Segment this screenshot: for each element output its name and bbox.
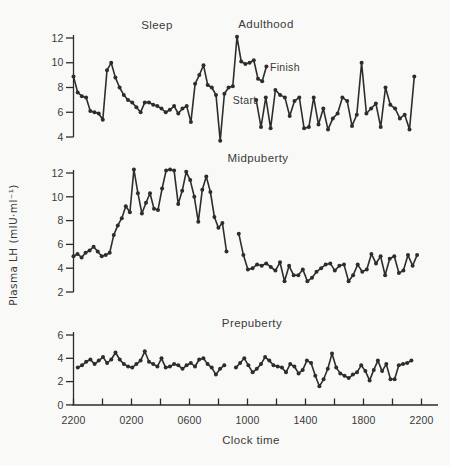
data-point xyxy=(350,124,354,128)
data-point xyxy=(376,359,380,363)
data-point xyxy=(184,170,188,174)
data-point xyxy=(355,113,359,117)
data-point xyxy=(293,99,297,103)
data-point xyxy=(222,92,226,96)
data-point xyxy=(109,61,113,65)
midpuberty-y-tick-label: 2 xyxy=(57,286,63,298)
data-point xyxy=(76,252,80,256)
data-point xyxy=(176,363,180,367)
x-axis: 2200020006001000140018002200 xyxy=(61,399,438,427)
data-point xyxy=(292,365,296,369)
data-point xyxy=(401,362,405,366)
data-point xyxy=(220,221,224,225)
data-point xyxy=(389,377,393,381)
x-tick-label: 1000 xyxy=(235,414,259,426)
data-point xyxy=(403,113,407,117)
data-point xyxy=(264,95,268,99)
data-point xyxy=(72,74,76,78)
panel-adulthood: 4681012 xyxy=(51,32,416,143)
data-point xyxy=(319,266,323,270)
data-point xyxy=(130,366,134,370)
data-point xyxy=(305,279,309,283)
data-point xyxy=(337,264,341,268)
data-point xyxy=(80,363,84,367)
adulthood-y-tick-label: 8 xyxy=(57,81,63,93)
data-point xyxy=(151,103,155,107)
data-point xyxy=(124,204,128,208)
data-point xyxy=(278,93,282,97)
data-point xyxy=(114,351,118,355)
data-point xyxy=(206,83,210,87)
data-point xyxy=(259,125,263,129)
data-point xyxy=(112,233,116,237)
data-point xyxy=(160,187,164,191)
prepuberty-daytime-markers xyxy=(234,352,414,389)
y-axis-title: Plasma LH (mIU·ml⁻¹) xyxy=(7,184,19,306)
data-point xyxy=(260,79,264,83)
data-point xyxy=(405,361,409,365)
data-point xyxy=(272,363,276,367)
midpuberty-y-tick-label: 6 xyxy=(57,238,63,250)
data-point xyxy=(188,178,192,182)
data-point xyxy=(143,100,147,104)
data-point xyxy=(252,58,256,62)
data-point xyxy=(93,110,97,114)
data-point xyxy=(283,95,287,99)
data-point xyxy=(234,366,238,370)
data-point xyxy=(267,359,271,363)
x-tick-label: 2200 xyxy=(409,414,433,426)
panel-prepuberty: 0246 xyxy=(57,329,413,411)
data-point xyxy=(72,254,76,258)
data-point xyxy=(104,253,108,257)
data-point xyxy=(374,102,378,106)
data-point xyxy=(185,104,189,108)
data-point xyxy=(384,362,388,366)
data-point xyxy=(317,123,321,127)
data-point xyxy=(388,103,392,107)
data-point xyxy=(193,365,197,369)
data-point xyxy=(164,169,168,173)
data-point xyxy=(164,366,168,370)
data-point xyxy=(84,95,88,99)
data-point xyxy=(398,116,402,120)
data-point xyxy=(313,374,317,378)
data-point xyxy=(345,99,349,103)
data-point xyxy=(297,95,301,99)
data-point xyxy=(334,366,338,370)
data-point xyxy=(406,253,410,257)
data-point xyxy=(383,273,387,277)
data-point xyxy=(401,269,405,273)
data-point xyxy=(347,376,351,380)
data-point xyxy=(326,128,330,132)
midpuberty-y-tick-label: 4 xyxy=(57,262,63,274)
data-point xyxy=(393,107,397,111)
data-point xyxy=(397,363,401,367)
data-point xyxy=(331,116,335,120)
annotation-start: Start xyxy=(233,94,257,106)
data-point xyxy=(218,367,222,371)
data-point xyxy=(88,358,92,362)
panel-title-midpuberty: Midpuberty xyxy=(228,152,289,164)
data-point xyxy=(280,366,284,370)
data-point xyxy=(118,358,122,362)
adulthood-y-tick-label: 10 xyxy=(51,56,63,68)
data-point xyxy=(168,365,172,369)
data-point xyxy=(206,362,210,366)
x-tick-label: 2200 xyxy=(61,414,85,426)
data-point xyxy=(196,220,200,224)
data-point xyxy=(322,377,326,381)
data-point xyxy=(269,265,273,269)
data-point xyxy=(116,223,120,227)
data-point xyxy=(248,61,252,65)
data-point xyxy=(330,352,334,356)
data-point xyxy=(397,271,401,275)
data-point xyxy=(333,269,337,273)
data-point xyxy=(208,190,212,194)
data-point xyxy=(155,104,159,108)
adulthood-y-tick-label: 6 xyxy=(57,106,63,118)
data-point xyxy=(393,377,397,381)
data-point xyxy=(326,367,330,371)
data-point xyxy=(364,112,368,116)
data-point xyxy=(126,365,130,369)
data-point xyxy=(80,256,84,260)
